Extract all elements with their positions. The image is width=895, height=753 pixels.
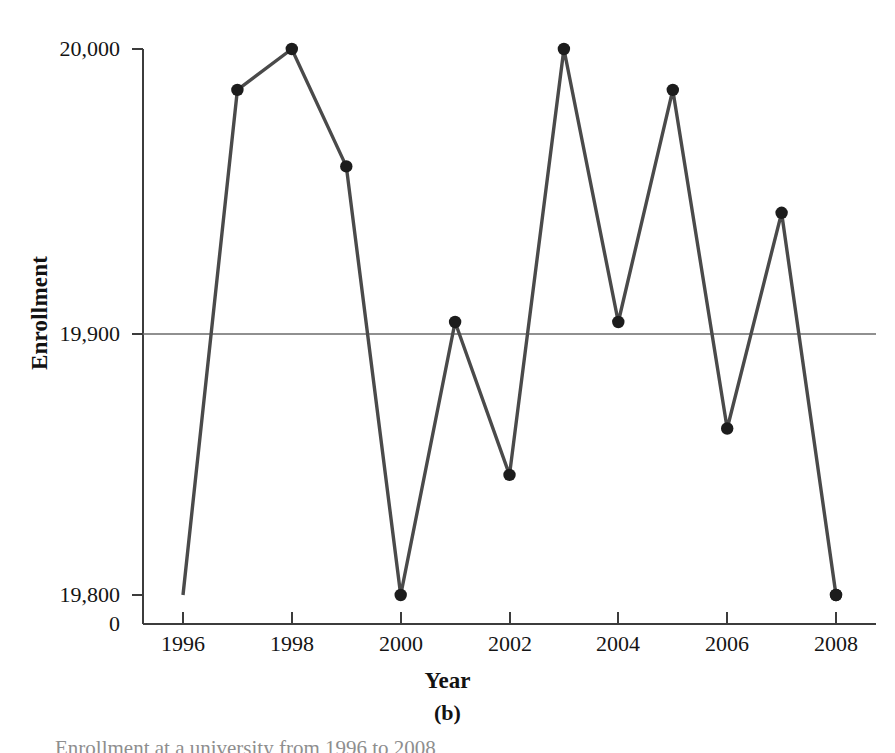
data-point-2004 (667, 84, 679, 96)
data-point-2008 (830, 589, 842, 601)
figure-caption-partial: Enrollment at a university from 1996 to … (55, 738, 845, 753)
data-point-2001 (503, 469, 515, 481)
panel-label: (b) (0, 700, 895, 726)
data-point-1996 (231, 84, 243, 96)
data-point-markers (231, 43, 842, 601)
y-axis-ticks (132, 49, 143, 595)
x-tick-label-2000: 2000 (356, 632, 446, 656)
data-series-line (183, 49, 836, 595)
x-tick-label-1996: 1996 (138, 632, 228, 656)
data-point-2000 (449, 316, 461, 328)
data-point-2003 (612, 316, 624, 328)
data-point-2005 (721, 422, 733, 434)
x-axis-title: Year (0, 668, 895, 694)
figure-panel-b: Enrollment 20,000 19,900 19,800 0 (0, 0, 895, 753)
x-tick-label-2002: 2002 (465, 632, 555, 656)
x-tick-label-2004: 2004 (573, 632, 663, 656)
x-tick-label-1998: 1998 (247, 632, 337, 656)
data-point-1999 (395, 589, 407, 601)
data-point-2006 (775, 207, 787, 219)
x-tick-label-2006: 2006 (682, 632, 772, 656)
data-point-2002 (558, 43, 570, 55)
x-axis-ticks (183, 612, 836, 624)
data-point-1997 (286, 43, 298, 55)
data-point-1998 (340, 160, 352, 172)
x-tick-label-2008: 2008 (791, 632, 881, 656)
